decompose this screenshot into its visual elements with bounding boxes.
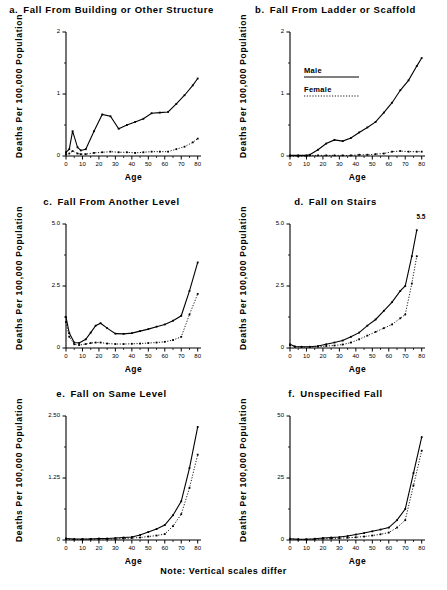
data-point-female xyxy=(388,532,390,534)
data-point-male xyxy=(363,532,365,534)
data-point-female xyxy=(330,538,332,540)
data-point-female xyxy=(100,342,102,344)
data-point-female xyxy=(192,141,194,143)
data-point-female xyxy=(180,513,182,515)
data-point-female xyxy=(416,151,418,153)
chart-panel-d: d.Fall on StairsDeaths Per 100,000 Popul… xyxy=(224,196,447,386)
data-point-female xyxy=(90,538,92,540)
data-annotation: 5.5 xyxy=(416,213,425,220)
data-point-male xyxy=(391,102,393,104)
plot-area-f xyxy=(224,388,447,578)
data-point-female xyxy=(72,150,74,152)
data-point-female xyxy=(110,151,112,153)
series-line-male xyxy=(290,230,417,347)
data-point-male xyxy=(101,114,103,116)
data-point-female xyxy=(289,155,291,157)
legend-label-male: Male xyxy=(304,66,322,75)
data-point-female xyxy=(309,154,311,156)
data-point-male xyxy=(408,79,410,81)
data-point-male xyxy=(375,121,377,123)
data-point-female xyxy=(159,151,161,153)
plot-area-e xyxy=(0,388,223,578)
data-point-female xyxy=(151,151,153,153)
data-point-female xyxy=(396,527,398,529)
data-point-male xyxy=(383,112,385,114)
series-line-female xyxy=(290,256,417,347)
data-point-male xyxy=(85,338,87,340)
chart-panel-f: f.Unspecified FallDeaths Per 100,000 Pop… xyxy=(224,388,447,578)
data-point-male xyxy=(197,426,199,428)
data-point-male xyxy=(388,527,390,529)
data-point-female xyxy=(314,538,316,540)
data-point-female xyxy=(175,148,177,150)
data-point-male xyxy=(350,336,352,338)
data-point-male xyxy=(126,124,128,126)
data-point-female xyxy=(172,525,174,527)
series-line-male xyxy=(66,262,198,343)
data-point-female xyxy=(371,535,373,537)
data-point-female xyxy=(93,152,95,154)
data-point-female xyxy=(399,150,401,152)
series-line-female xyxy=(66,294,198,345)
chart-panel-a: a.Fall From Building or Other StructureD… xyxy=(0,4,223,194)
data-point-male xyxy=(134,121,136,123)
data-point-male xyxy=(355,534,357,536)
data-point-female xyxy=(73,343,75,345)
data-point-female xyxy=(180,336,182,338)
chart-panel-c: c.Fall From Another LevelDeaths Per 100,… xyxy=(0,196,223,386)
data-point-male xyxy=(358,132,360,134)
data-point-female xyxy=(363,536,365,538)
data-point-female xyxy=(358,154,360,156)
data-point-male xyxy=(421,436,423,438)
data-point-female xyxy=(294,346,296,348)
data-point-female xyxy=(416,255,418,257)
data-point-female xyxy=(355,536,357,538)
series-line-female xyxy=(66,455,198,540)
data-point-female xyxy=(347,537,349,539)
data-point-male xyxy=(325,143,327,145)
data-point-male xyxy=(180,315,182,317)
data-point-male xyxy=(172,320,174,322)
data-point-female xyxy=(78,344,80,346)
series-line-female xyxy=(66,139,198,155)
data-point-male xyxy=(139,534,141,536)
data-point-female xyxy=(142,151,144,153)
data-point-female xyxy=(147,536,149,538)
chart-panel-b: b.Fall From Ladder or ScaffoldDeaths Per… xyxy=(224,4,447,194)
data-point-male xyxy=(77,146,79,148)
data-point-female xyxy=(98,538,100,540)
data-point-female xyxy=(383,327,385,329)
data-point-female xyxy=(85,153,87,155)
data-point-male xyxy=(147,531,149,533)
data-point-female xyxy=(167,151,169,153)
falls-mortality-figure: a.Fall From Building or Other StructureD… xyxy=(0,0,447,590)
data-point-male xyxy=(334,342,336,344)
data-point-male xyxy=(93,130,95,132)
data-point-male xyxy=(100,322,102,324)
plot-area-d xyxy=(224,196,447,386)
data-point-male xyxy=(366,325,368,327)
data-point-female xyxy=(164,341,166,343)
data-point-female xyxy=(380,533,382,535)
data-point-female xyxy=(118,151,120,153)
data-point-male xyxy=(189,290,191,292)
data-point-female xyxy=(408,151,410,153)
data-point-female xyxy=(156,535,158,537)
data-point-female xyxy=(77,153,79,155)
data-point-female xyxy=(95,342,97,344)
data-point-female xyxy=(65,538,67,540)
data-point-male xyxy=(383,310,385,312)
data-point-female xyxy=(197,454,199,456)
data-point-female xyxy=(80,153,82,155)
data-point-male xyxy=(350,137,352,139)
chart-panel-e: e.Fall on Same LevelDeaths Per 100,000 P… xyxy=(0,388,223,578)
series-line-male xyxy=(66,79,198,153)
data-point-female xyxy=(289,344,291,346)
data-point-male xyxy=(110,115,112,117)
data-point-female xyxy=(106,343,108,345)
data-point-female xyxy=(306,155,308,157)
data-point-female xyxy=(375,331,377,333)
data-point-female xyxy=(325,345,327,347)
data-point-male xyxy=(404,508,406,510)
data-point-female xyxy=(421,450,423,452)
